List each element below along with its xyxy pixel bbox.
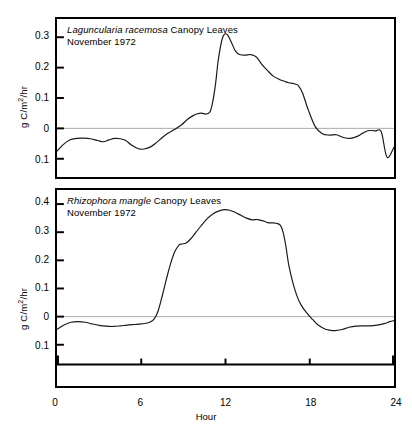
panel-date-top: November 1972 [67, 36, 136, 47]
plot-area-bottom [57, 190, 394, 386]
y-axis-tick-label: 0.1 [15, 93, 49, 103]
figure-container: Laguncularia racemosa Canopy Leaves Nove… [0, 0, 412, 428]
x-axis-tick-label: 12 [214, 398, 238, 408]
data-series-line [57, 210, 394, 331]
y-axis-tick-label: 0.4 [15, 197, 49, 207]
species-name-top: Laguncularia racemosa [67, 24, 168, 35]
y-axis-tick-label: 0.2 [15, 255, 49, 265]
x-axis-label: Hour [0, 411, 412, 422]
panel-subtitle-bottom: Canopy Leaves [151, 195, 221, 206]
y-axis-label-bottom-exponent: 2 [17, 300, 24, 304]
x-axis-tick-label: 18 [299, 398, 323, 408]
species-name-bottom: Rhizophora mangle [67, 195, 151, 206]
panel-title-top: Laguncularia racemosa Canopy Leaves Nove… [67, 24, 238, 47]
y-axis-tick-label: 0 [15, 312, 49, 322]
y-axis-tick-label: 0.1 [15, 155, 49, 165]
chart-panel-top: Laguncularia racemosa Canopy Leaves Nove… [55, 17, 396, 179]
panel-date-bottom: November 1972 [67, 207, 136, 218]
y-axis-tick-label: 0.3 [15, 226, 49, 236]
x-axis-tick-label: 24 [384, 398, 408, 408]
y-axis-label-bottom: g C/m2/hr [17, 288, 29, 330]
y-axis-tick-label: 0.3 [15, 31, 49, 41]
chart-panel-bottom: Rhizophora mangle Canopy Leaves November… [55, 188, 396, 388]
y-axis-tick-label: 0.1 [15, 341, 49, 351]
data-series-line [57, 34, 394, 158]
panel-subtitle-top: Canopy Leaves [168, 24, 238, 35]
x-axis-tick-label: 6 [128, 398, 152, 408]
y-axis-tick-label: 0 [15, 124, 49, 134]
x-axis-tick-label: 0 [43, 398, 67, 408]
y-axis-tick-label: 0.1 [15, 283, 49, 293]
panel-title-bottom: Rhizophora mangle Canopy Leaves November… [67, 195, 221, 218]
y-axis-tick-label: 0.2 [15, 62, 49, 72]
